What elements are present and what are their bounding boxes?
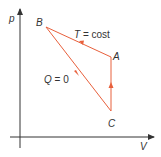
adiabatic-label-rest: = 0 xyxy=(52,74,69,85)
pv-diagram: p V B A C T = cost Q = 0 xyxy=(0,0,161,157)
point-c-label: C xyxy=(108,119,115,129)
point-a-label: A xyxy=(113,52,120,62)
y-axis-label: p xyxy=(9,14,15,24)
point-b-label: B xyxy=(36,18,43,28)
adiabatic-label-var: Q xyxy=(44,74,52,85)
adiabatic-label: Q = 0 xyxy=(44,75,69,85)
arrow-b-to-c-icon xyxy=(74,70,79,76)
diagram-graphic xyxy=(0,0,161,157)
isothermal-label: T = cost xyxy=(74,30,110,40)
arrow-c-to-a-icon xyxy=(109,82,114,88)
x-axis-label: V xyxy=(140,142,147,152)
isothermal-label-rest: = cost xyxy=(80,29,110,40)
